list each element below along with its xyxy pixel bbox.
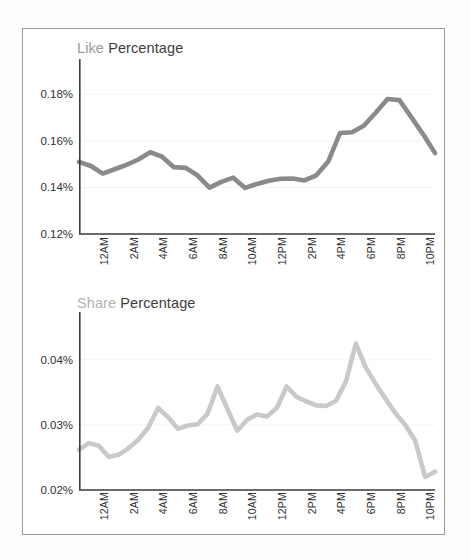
axis-spine xyxy=(80,59,435,234)
share-percentage-panel: Share Percentage 0.04%0.03%0.02% 12AM2AM… xyxy=(23,284,446,536)
like-line-chart-svg xyxy=(79,71,435,234)
y-tick-label: 0.02% xyxy=(40,484,73,496)
x-tick-label: 8AM xyxy=(217,237,229,259)
x-tick-label: 12AM xyxy=(98,492,110,520)
share-x-axis-labels: 12AM2AM4AM6AM8AM10AM12PM2PM4PM6PM8PM10PM xyxy=(79,492,435,538)
y-tick-label: 0.12% xyxy=(40,228,73,240)
like-title-suffix: Percentage xyxy=(104,40,183,56)
like-chart-title: Like Percentage xyxy=(77,40,183,56)
x-tick-label: 4PM xyxy=(335,237,347,259)
share-y-axis-labels: 0.04%0.03%0.02% xyxy=(23,324,75,490)
share-plot-area xyxy=(79,324,435,490)
like-percentage-panel: Like Percentage 0.18%0.16%0.14%0.12% 12A… xyxy=(23,29,446,284)
x-tick-label: 6AM xyxy=(187,492,199,514)
x-tick-label: 8PM xyxy=(395,237,407,259)
x-tick-label: 12AM xyxy=(98,237,110,265)
y-tick-label: 0.04% xyxy=(40,354,73,366)
x-tick-label: 12PM xyxy=(276,237,288,265)
x-tick-label: 12PM xyxy=(276,492,288,520)
x-tick-label: 8AM xyxy=(217,492,229,514)
share-chart-title: Share Percentage xyxy=(77,295,196,311)
data-line-like-percentage-chart xyxy=(79,99,435,188)
like-y-axis-labels: 0.18%0.16%0.14%0.12% xyxy=(23,71,75,234)
like-title-metric: Like xyxy=(77,40,104,56)
x-tick-label: 10PM xyxy=(424,237,436,265)
x-tick-label: 4PM xyxy=(335,492,347,514)
y-tick-label: 0.16% xyxy=(40,135,73,147)
x-tick-label: 2AM xyxy=(128,237,140,259)
like-plot-area xyxy=(79,71,435,234)
data-line-share-percentage-chart xyxy=(79,344,435,477)
chart-page: Like Percentage 0.18%0.16%0.14%0.12% 12A… xyxy=(0,0,470,560)
axis-spine xyxy=(80,312,435,490)
x-tick-label: 6PM xyxy=(365,492,377,514)
x-tick-label: 6AM xyxy=(187,237,199,259)
y-tick-label: 0.18% xyxy=(40,88,73,100)
like-x-axis-labels: 12AM2AM4AM6AM8AM10AM12PM2PM4PM6PM8PM10PM xyxy=(79,237,435,283)
share-title-metric: Share xyxy=(77,295,116,311)
x-tick-label: 4AM xyxy=(157,492,169,514)
x-tick-label: 4AM xyxy=(157,237,169,259)
chart-card: Like Percentage 0.18%0.16%0.14%0.12% 12A… xyxy=(22,28,445,535)
x-tick-label: 2PM xyxy=(306,492,318,514)
x-tick-label: 8PM xyxy=(395,492,407,514)
x-tick-label: 6PM xyxy=(365,237,377,259)
x-tick-label: 2PM xyxy=(306,237,318,259)
x-tick-label: 10PM xyxy=(424,492,436,520)
y-tick-label: 0.03% xyxy=(40,419,73,431)
x-tick-label: 10AM xyxy=(246,492,258,520)
x-tick-label: 10AM xyxy=(246,237,258,265)
x-tick-label: 2AM xyxy=(128,492,140,514)
share-line-chart-svg xyxy=(79,324,435,490)
y-tick-label: 0.14% xyxy=(40,181,73,193)
share-title-suffix: Percentage xyxy=(116,295,195,311)
